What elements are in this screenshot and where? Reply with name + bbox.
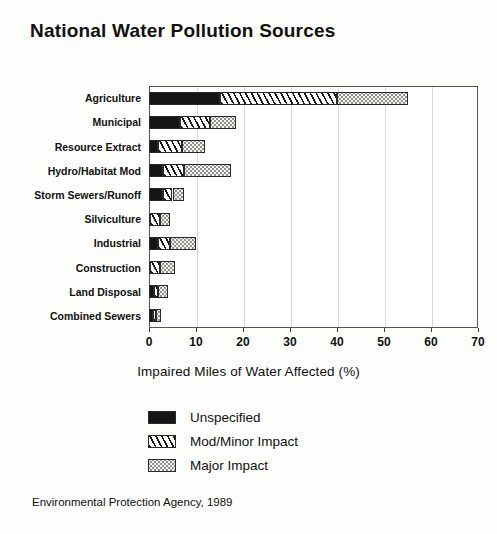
bar-segment-unspecified[interactable]: [149, 92, 220, 105]
bar-segment-mod-minor-impact[interactable]: [150, 213, 159, 226]
x-tick-mark-70: [478, 328, 479, 332]
x-tick-mark-30: [290, 328, 291, 332]
bar-segment-unspecified[interactable]: [149, 164, 163, 177]
category-axis-labels: AgricultureMunicipalResource ExtractHydr…: [0, 86, 145, 328]
bar-segment-major-impact[interactable]: [184, 164, 231, 177]
bar-segment-unspecified[interactable]: [149, 140, 158, 153]
bar-segment-unspecified[interactable]: [149, 237, 158, 250]
x-tick-mark-50: [384, 328, 385, 332]
legend-swatch-solid-black-icon: [148, 411, 176, 424]
category-label-3: Hydro/Habitat Mod: [48, 165, 141, 177]
category-label-7: Construction: [76, 262, 141, 274]
bar-series-container: [149, 86, 478, 328]
bar-segment-major-impact[interactable]: [182, 140, 206, 153]
bar-row[interactable]: [149, 213, 170, 226]
source-note: Environmental Protection Agency, 1989: [32, 496, 233, 508]
category-label-5: Silviculture: [84, 213, 141, 225]
bar-segment-unspecified[interactable]: [149, 188, 163, 201]
x-tick-mark-20: [243, 328, 244, 332]
category-label-4: Storm Sewers/Runoff: [34, 189, 141, 201]
bar-row[interactable]: [149, 261, 175, 274]
bar-segment-unspecified[interactable]: [149, 116, 180, 129]
bar-segment-major-impact[interactable]: [160, 213, 170, 226]
bar-segment-mod-minor-impact[interactable]: [163, 188, 172, 201]
bar-row[interactable]: [149, 285, 168, 298]
bar-row[interactable]: [149, 164, 231, 177]
category-label-2: Resource Extract: [55, 141, 141, 153]
bar-segment-major-impact[interactable]: [210, 116, 236, 129]
category-label-6: Industrial: [94, 237, 141, 249]
x-tick-label-60: 60: [424, 335, 437, 349]
bar-segment-mod-minor-impact[interactable]: [163, 164, 184, 177]
chart-page: National Water Pollution Sources Agricul…: [0, 0, 497, 534]
x-tick-label-20: 20: [236, 335, 249, 349]
x-tick-mark-10: [196, 328, 197, 332]
bar-row[interactable]: [149, 309, 161, 322]
chart-legend: UnspecifiedMod/Minor ImpactMajor Impact: [148, 405, 298, 477]
legend-label: Unspecified: [190, 410, 261, 425]
bar-row[interactable]: [149, 92, 408, 105]
category-label-1: Municipal: [93, 116, 141, 128]
x-tick-mark-60: [431, 328, 432, 332]
legend-label: Major Impact: [190, 458, 268, 473]
bar-segment-mod-minor-impact[interactable]: [158, 237, 170, 250]
x-tick-label-70: 70: [471, 335, 484, 349]
category-label-0: Agriculture: [85, 92, 141, 104]
bar-segment-major-impact[interactable]: [337, 92, 408, 105]
bar-segment-major-impact[interactable]: [156, 309, 161, 322]
legend-swatch-light-dots-icon: [148, 459, 176, 472]
legend-item-major-impact[interactable]: Major Impact: [148, 453, 298, 477]
legend-label: Mod/Minor Impact: [190, 434, 298, 449]
x-tick-mark-40: [337, 328, 338, 332]
bar-segment-mod-minor-impact[interactable]: [180, 116, 211, 129]
legend-item-mod-minor-impact[interactable]: Mod/Minor Impact: [148, 429, 298, 453]
bar-segment-mod-minor-impact[interactable]: [150, 261, 159, 274]
bar-segment-major-impact[interactable]: [158, 285, 167, 298]
bar-segment-mod-minor-impact[interactable]: [158, 140, 182, 153]
bar-segment-mod-minor-impact[interactable]: [220, 92, 338, 105]
category-label-9: Combined Sewers: [50, 310, 141, 322]
page-title: National Water Pollution Sources: [30, 20, 336, 42]
legend-swatch-diagonal-hatch-icon: [148, 435, 176, 448]
x-tick-label-40: 40: [330, 335, 343, 349]
x-tick-label-30: 30: [283, 335, 296, 349]
bar-segment-major-impact[interactable]: [173, 188, 185, 201]
bar-segment-major-impact[interactable]: [170, 237, 196, 250]
x-axis: 010203040506070: [149, 328, 478, 358]
bar-row[interactable]: [149, 237, 196, 250]
x-tick-mark-0: [149, 328, 150, 332]
x-tick-label-0: 0: [146, 335, 153, 349]
bar-segment-major-impact[interactable]: [160, 261, 175, 274]
legend-item-unspecified[interactable]: Unspecified: [148, 405, 298, 429]
x-tick-label-10: 10: [189, 335, 202, 349]
bar-row[interactable]: [149, 140, 205, 153]
bar-row[interactable]: [149, 188, 184, 201]
bar-row[interactable]: [149, 116, 236, 129]
x-axis-title: Impaired Miles of Water Affected (%): [0, 364, 497, 379]
category-label-8: Land Disposal: [69, 286, 141, 298]
x-tick-label-50: 50: [377, 335, 390, 349]
